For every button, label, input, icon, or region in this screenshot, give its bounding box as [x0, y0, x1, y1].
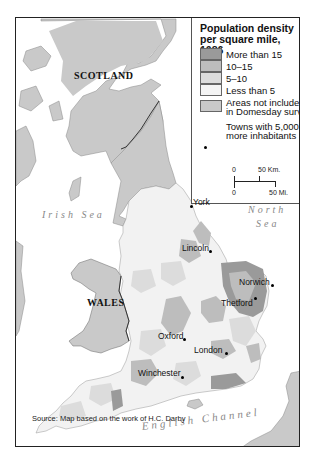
- swatch-less-than-5: [200, 84, 222, 96]
- label-north-sea-1: North: [248, 204, 286, 215]
- town-dot-icon: [204, 146, 207, 149]
- map-frame: Population density per square mile, 1086…: [15, 17, 300, 447]
- town-dot-norwich: [271, 284, 274, 287]
- ireland-north-landmass: [16, 126, 36, 186]
- town-dot-winchester: [181, 376, 184, 379]
- swatch-more-than-15: [200, 48, 222, 60]
- ireland-east-coast: [16, 241, 25, 336]
- swatch-5-10: [200, 72, 222, 84]
- town-winchester: Winchester: [138, 368, 181, 378]
- label-scotland: SCOTLAND: [74, 70, 134, 81]
- scale-bar: 0 50 Km. 0 50 Mi.: [232, 166, 292, 202]
- legend-item-5-10: 5–10: [200, 72, 247, 84]
- swatch-10-15: [200, 60, 222, 72]
- town-dot-thetford: [254, 297, 257, 300]
- legend-item-10-15: 10–15: [200, 60, 252, 72]
- label-north-sea-2: Sea: [256, 218, 279, 229]
- label-irish-sea: Irish Sea: [42, 209, 105, 220]
- town-york: York: [193, 197, 210, 207]
- town-norwich: Norwich: [239, 277, 270, 287]
- legend-item-more-than-15: More than 15: [200, 48, 282, 60]
- town-dot-lincoln: [209, 250, 212, 253]
- england-surveyed: [36, 183, 269, 433]
- town-london: London: [194, 345, 222, 355]
- town-lincoln: Lincoln: [182, 243, 209, 253]
- source-note: Source: Map based on the work of H.C. Da…: [32, 414, 185, 423]
- label-wales: WALES: [87, 297, 125, 308]
- swatch-not-surveyed: [200, 100, 222, 112]
- legend-item-less-than-5: Less than 5: [200, 84, 275, 96]
- legend-item-not-surveyed: [200, 100, 222, 112]
- town-oxford: Oxford: [158, 331, 184, 341]
- isle-of-wight: [187, 399, 203, 409]
- town-thetford: Thetford: [221, 298, 253, 308]
- town-dot-london: [225, 352, 228, 355]
- legend-label-not-surveyed-2: in Domesday survey: [226, 107, 300, 116]
- legend: Population density per square mile, 1086…: [191, 18, 300, 204]
- legend-towns-line2: more inhabitants: [226, 131, 296, 140]
